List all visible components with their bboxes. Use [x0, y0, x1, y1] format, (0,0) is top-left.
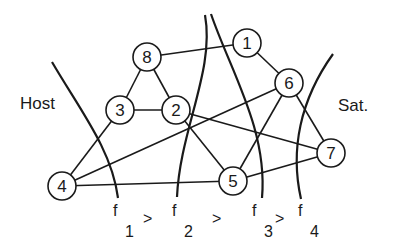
cut-f2-relation: > [212, 210, 221, 227]
cut-f3-name: f [252, 202, 257, 219]
cut-f1-name: f [113, 202, 118, 219]
node-2: 2 [162, 96, 190, 124]
svg-text:5: 5 [228, 172, 237, 191]
cut-f4-sub: 4 [310, 223, 319, 240]
cut-f1-relation: > [143, 210, 152, 227]
svg-text:3: 3 [115, 101, 124, 120]
cut-f2-name: f [172, 202, 177, 219]
node-8: 8 [133, 43, 161, 71]
cut-f3-sub: 3 [264, 223, 273, 240]
node-6: 6 [275, 69, 303, 97]
edge-4-5 [62, 181, 233, 186]
edges [62, 43, 331, 186]
host-label: Host [20, 94, 55, 113]
edge-8-1 [147, 43, 247, 57]
cut-f2-sub: 2 [184, 223, 193, 240]
svg-text:2: 2 [171, 101, 180, 120]
svg-text:4: 4 [57, 177, 66, 196]
cut-f3-relation: > [275, 210, 284, 227]
node-5: 5 [219, 167, 247, 195]
cut-f4-name: f [298, 202, 303, 219]
cut-f1-sub: 1 [125, 223, 134, 240]
edge-5-7 [233, 153, 331, 181]
svg-text:6: 6 [284, 74, 293, 93]
cut-labels: f 1 > f 2 > f 3 > f 4 [113, 202, 319, 240]
node-1: 1 [233, 29, 261, 57]
partition-diagram: 1 2 3 4 5 6 7 8 Host Sat. f 1 > f 2 > f … [0, 0, 394, 251]
node-4: 4 [48, 172, 76, 200]
svg-text:1: 1 [242, 34, 251, 53]
node-7: 7 [317, 139, 345, 167]
nodes: 1 2 3 4 5 6 7 8 [48, 29, 345, 200]
svg-text:8: 8 [142, 48, 151, 67]
node-3: 3 [106, 96, 134, 124]
svg-text:7: 7 [326, 144, 335, 163]
satellite-label: Sat. [338, 96, 368, 115]
